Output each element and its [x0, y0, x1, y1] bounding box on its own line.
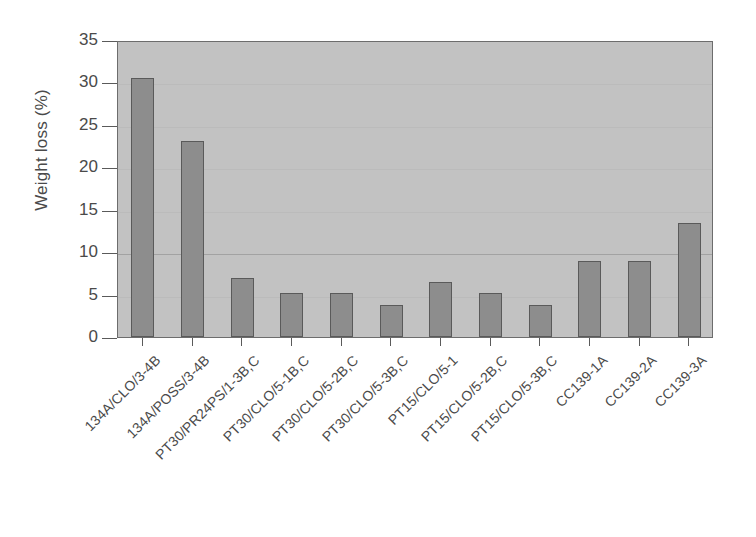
x-tick-label: PT15/CLO/5-2B,C	[418, 352, 511, 445]
bar	[529, 305, 552, 337]
x-tick-label: PT30/CLO/5-1B,C	[219, 352, 312, 445]
x-tick-label: PT30/CLO/5-3B,C	[319, 352, 412, 445]
bar	[380, 305, 403, 337]
y-tick-mark	[102, 338, 117, 339]
bar	[429, 282, 452, 337]
grid-line	[118, 169, 712, 170]
y-tick-mark	[102, 83, 117, 84]
y-tick-label: 10	[52, 242, 98, 262]
x-tick-label: CC139-2A	[602, 352, 660, 410]
grid-line	[118, 297, 712, 298]
x-tick-mark	[490, 338, 491, 346]
bar	[181, 141, 204, 337]
bar	[678, 223, 701, 337]
y-tick-label: 30	[52, 72, 98, 92]
y-tick-mark	[102, 253, 117, 254]
x-tick-mark	[639, 338, 640, 346]
bar	[479, 293, 502, 337]
x-tick-label: CC139-3A	[651, 352, 709, 410]
bar	[628, 261, 651, 337]
y-tick-label: 35	[52, 30, 98, 50]
y-tick-label: 5	[52, 285, 98, 305]
y-tick-mark	[102, 211, 117, 212]
chart-figure: Weight loss (%) 05101520253035 134A/CLO/…	[0, 0, 756, 537]
y-tick-mark	[102, 41, 117, 42]
bar	[280, 293, 303, 337]
y-tick-mark	[102, 168, 117, 169]
bar	[330, 293, 353, 337]
x-tick-label: PT30/CLO/5-2B,C	[269, 352, 362, 445]
x-tick-label: PT15/CLO/5-3B,C	[468, 352, 561, 445]
bar	[231, 278, 254, 337]
y-tick-label: 0	[52, 327, 98, 347]
plot-area	[117, 41, 713, 338]
y-tick-label: 25	[52, 115, 98, 135]
x-tick-mark	[241, 338, 242, 346]
y-tick-mark	[102, 296, 117, 297]
bar	[578, 261, 601, 337]
x-tick-mark	[192, 338, 193, 346]
grid-line	[118, 254, 712, 255]
grid-line	[118, 84, 712, 85]
x-tick-mark	[539, 338, 540, 346]
y-tick-label: 15	[52, 200, 98, 220]
y-tick-label: 20	[52, 157, 98, 177]
x-tick-mark	[341, 338, 342, 346]
x-tick-mark	[291, 338, 292, 346]
x-tick-mark	[440, 338, 441, 346]
grid-line	[118, 212, 712, 213]
y-tick-mark	[102, 126, 117, 127]
y-axis-title: Weight loss (%)	[32, 40, 52, 260]
x-tick-label: CC139-1A	[552, 352, 610, 410]
grid-line	[118, 127, 712, 128]
x-tick-mark	[142, 338, 143, 346]
x-tick-mark	[589, 338, 590, 346]
x-tick-mark	[390, 338, 391, 346]
x-tick-mark	[688, 338, 689, 346]
bar	[131, 78, 154, 337]
